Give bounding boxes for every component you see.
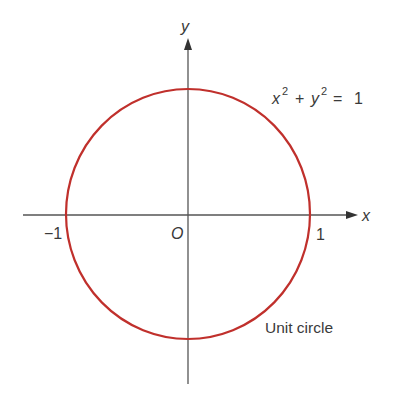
equation-x-exponent: 2 <box>282 85 288 97</box>
x-axis-label: x <box>361 207 371 224</box>
unit-circle-caption: Unit circle <box>265 319 333 336</box>
equation-equals: = <box>333 90 342 107</box>
equation-plus: + <box>295 90 304 107</box>
circle-equation: x 2 + y 2 = 1 <box>271 85 363 107</box>
equation-rhs: 1 <box>354 90 363 107</box>
x-axis-arrow-icon <box>346 211 358 219</box>
y-axis-arrow-icon <box>184 38 192 50</box>
origin-label: O <box>171 225 183 242</box>
unit-circle-figure: y x O −1 1 x 2 + y 2 = 1 Unit circle <box>0 0 396 399</box>
tick-label-pos-one: 1 <box>316 226 325 243</box>
y-axis-label: y <box>180 18 190 35</box>
tick-label-neg-one: −1 <box>44 225 62 242</box>
equation-y: y <box>310 90 320 107</box>
x-axis <box>23 211 358 219</box>
equation-y-exponent: 2 <box>321 85 327 97</box>
equation-x: x <box>271 90 281 107</box>
